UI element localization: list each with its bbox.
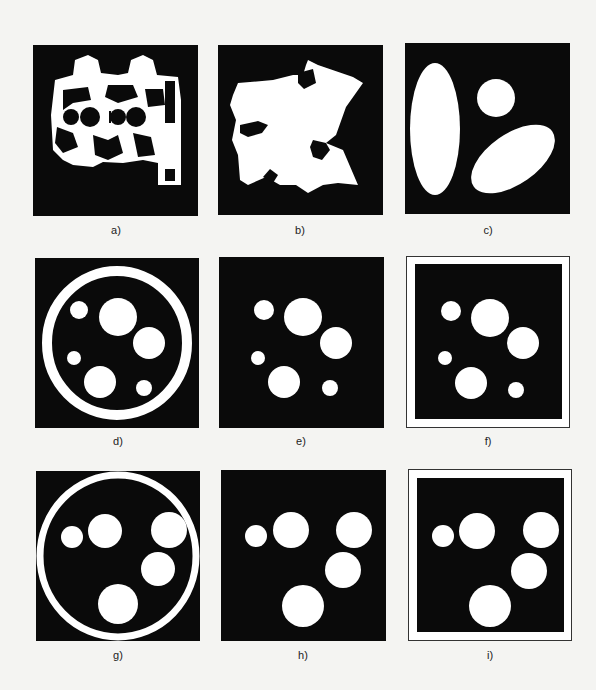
panel-a-caption: a)	[86, 224, 146, 236]
panel-e-caption: e)	[271, 435, 331, 447]
ellipses-and-circle-shape	[405, 43, 570, 214]
circles-framed-shape	[406, 256, 570, 428]
panel-e-image	[219, 257, 384, 428]
panel-i-caption: i)	[460, 649, 520, 661]
panel-h-image	[221, 470, 386, 641]
panel-c-caption: c)	[458, 224, 518, 236]
irregular-region-shape	[218, 45, 383, 215]
panel-b-caption: b)	[270, 224, 330, 236]
circles-no-ring-shape	[219, 257, 384, 428]
circles-no-ring-shape	[221, 470, 386, 641]
panel-f-image	[406, 256, 570, 428]
panel-f-caption: f)	[458, 435, 518, 447]
circles-in-ring-shape	[36, 471, 200, 641]
panel-i-image	[408, 469, 572, 641]
panel-b-image	[218, 45, 383, 215]
mechanical-part-shape	[33, 45, 198, 216]
panel-g-caption: g)	[88, 649, 148, 661]
panel-d-caption: d)	[88, 435, 148, 447]
circles-framed-shape	[408, 469, 572, 641]
panel-a-image	[33, 45, 198, 216]
panel-c-image	[405, 43, 570, 214]
panel-h-caption: h)	[273, 649, 333, 661]
panel-d-image	[35, 258, 199, 428]
panel-g-image	[36, 471, 200, 641]
circles-in-ring-shape	[35, 258, 199, 428]
